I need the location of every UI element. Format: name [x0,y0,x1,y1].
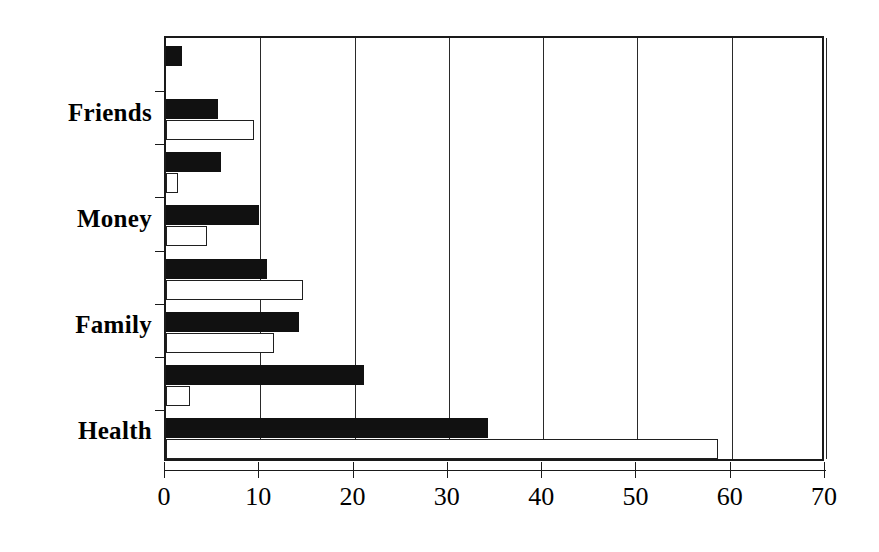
y-axis-labels: Friends Money Family Health [0,0,164,552]
x-tick-30 [447,462,448,478]
x-tick-label-50: 50 [605,482,665,512]
bar-filled-2 [166,152,221,172]
bar-chart: Friends Money Family Health 010203040506… [0,0,879,552]
y-tick-5 [155,304,166,305]
y-axis-label-health: Health [0,417,152,445]
bar-filled-3 [166,205,259,225]
y-tick-3 [155,197,166,198]
bar-hollow-4 [166,280,303,300]
y-tick-1 [155,91,166,92]
x-tick-label-40: 40 [511,482,571,512]
y-axis-label-money: Money [0,205,152,233]
plot-area [164,36,824,461]
bars-layer [166,38,822,459]
y-tick-4 [155,251,166,252]
bar-filled-0 [166,46,182,66]
y-tick-6 [155,357,166,358]
x-axis-line [164,470,826,471]
x-tick-label-60: 60 [700,482,760,512]
bar-hollow-1 [166,120,254,140]
x-tick-10 [258,462,259,478]
x-tick-label-10: 10 [228,482,288,512]
x-tick-60 [730,462,731,478]
x-tick-label-20: 20 [323,482,383,512]
bar-filled-4 [166,259,267,279]
bar-hollow-3 [166,226,207,246]
gridline-70 [826,38,827,459]
y-tick-2 [155,144,166,145]
y-axis-label-family: Family [0,311,152,339]
bar-hollow-7 [166,439,718,459]
y-tick-7 [155,410,166,411]
x-tick-label-30: 30 [417,482,477,512]
x-tick-0 [164,462,165,478]
y-axis-label-friends: Friends [0,99,152,127]
x-tick-label-0: 0 [134,482,194,512]
bar-filled-1 [166,99,218,119]
bar-hollow-5 [166,333,274,353]
bar-hollow-2 [166,173,178,193]
x-tick-70 [824,462,825,478]
bar-hollow-6 [166,386,190,406]
x-tick-40 [541,462,542,478]
x-tick-50 [635,462,636,478]
bar-filled-6 [166,365,364,385]
x-tick-label-70: 70 [794,482,854,512]
x-tick-20 [353,462,354,478]
bar-filled-7 [166,418,488,438]
bar-filled-5 [166,312,299,332]
